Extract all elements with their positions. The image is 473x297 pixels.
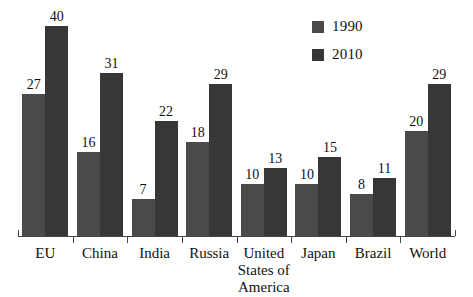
axis-tick — [346, 236, 347, 243]
bar-rect — [405, 131, 428, 236]
category-label: Brazil — [346, 245, 401, 296]
bar-value-label: 16 — [81, 135, 95, 150]
axis-tick — [400, 236, 401, 243]
bar-value-label: 29 — [214, 67, 228, 82]
bar-rect — [373, 178, 396, 236]
bar-rect — [186, 142, 209, 237]
bar-group: 1631 — [73, 8, 128, 236]
bar-item: 10 — [241, 8, 264, 236]
bar-value-label: 15 — [323, 140, 337, 155]
bar-value-label: 10 — [300, 167, 314, 182]
axis-tick — [127, 236, 128, 243]
axis-tick — [182, 236, 183, 243]
axis-tick — [291, 236, 292, 243]
bar-rect — [22, 94, 45, 236]
bar-value-label: 10 — [245, 167, 259, 182]
bar-item: 15 — [318, 8, 341, 236]
bar-rect — [350, 194, 373, 236]
bar-rect — [209, 84, 232, 236]
x-axis-category-labels: EUChinaIndiaRussiaUnited States of Ameri… — [18, 245, 455, 296]
bar-item: 29 — [428, 8, 451, 236]
bar-rect — [264, 168, 287, 236]
category-label: Japan — [291, 245, 346, 296]
category-label: India — [127, 245, 182, 296]
category-label: Russia — [182, 245, 237, 296]
bar-rect — [295, 184, 318, 237]
bar-group: 1829 — [182, 8, 237, 236]
bar-groups: 274016317221829101310158112029 — [18, 8, 455, 236]
bar-item: 20 — [405, 8, 428, 236]
bar-group: 1015 — [291, 8, 346, 236]
bar-rect — [100, 73, 123, 236]
bar-value-label: 13 — [268, 151, 282, 166]
bar-rect — [241, 184, 264, 237]
bar-group: 2029 — [400, 8, 455, 236]
bar-item: 31 — [100, 8, 123, 236]
bar-item: 7 — [132, 8, 155, 236]
bar-item: 22 — [155, 8, 178, 236]
bar-item: 11 — [373, 8, 396, 236]
bar-rect — [318, 157, 341, 236]
bar-value-label: 31 — [104, 56, 118, 71]
bar-group: 2740 — [18, 8, 73, 236]
bar-group: 811 — [346, 8, 401, 236]
bar-item: 16 — [77, 8, 100, 236]
bar-group: 1013 — [237, 8, 292, 236]
bar-value-label: 8 — [358, 177, 365, 192]
bar-value-label: 22 — [159, 104, 173, 119]
category-label: World — [400, 245, 455, 296]
bar-value-label: 29 — [432, 67, 446, 82]
bar-group: 722 — [127, 8, 182, 236]
bar-chart: 1990 2010 274016317221829101310158112029… — [0, 0, 473, 297]
bar-rect — [77, 152, 100, 236]
bar-rect — [428, 84, 451, 236]
bar-value-label: 40 — [50, 9, 64, 24]
bar-value-label: 11 — [378, 161, 391, 176]
category-label: EU — [18, 245, 73, 296]
bar-value-label: 7 — [140, 182, 147, 197]
axis-tick — [18, 230, 19, 236]
bar-rect — [45, 26, 68, 236]
bar-item: 18 — [186, 8, 209, 236]
bar-item: 29 — [209, 8, 232, 236]
bar-rect — [155, 121, 178, 237]
bar-value-label: 20 — [409, 114, 423, 129]
bar-value-label: 18 — [191, 125, 205, 140]
bar-item: 27 — [22, 8, 45, 236]
bar-item: 40 — [45, 8, 68, 236]
bar-item: 13 — [264, 8, 287, 236]
category-label: United States of America — [237, 245, 292, 296]
bar-item: 8 — [350, 8, 373, 236]
plot-area: 274016317221829101310158112029 — [18, 8, 455, 236]
category-label: China — [73, 245, 128, 296]
bar-item: 10 — [295, 8, 318, 236]
bar-rect — [132, 199, 155, 236]
axis-tick — [237, 236, 238, 243]
bar-value-label: 27 — [27, 77, 41, 92]
axis-tick — [455, 230, 456, 236]
axis-tick — [73, 236, 74, 243]
x-axis-ticks — [18, 236, 455, 243]
